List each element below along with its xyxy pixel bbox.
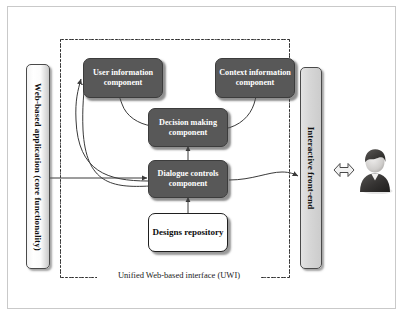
designs-repository-label: Designs repository	[152, 227, 223, 238]
decision-making-component-label: Decision making component	[150, 118, 226, 137]
user-information-component-label: User information component	[85, 68, 161, 87]
context-information-component[interactable]: Context information component	[215, 58, 295, 98]
double-headed-arrow-icon	[333, 160, 355, 180]
person-icon	[357, 146, 395, 194]
dialogue-controls-component-label: Dialogue controls component	[150, 169, 226, 188]
user-information-component[interactable]: User information component	[83, 58, 163, 98]
decision-making-component[interactable]: Decision making component	[148, 108, 228, 147]
uwi-region-label: Unified Web-based interface (UWI)	[97, 270, 261, 281]
dialogue-controls-component[interactable]: Dialogue controls component	[148, 160, 228, 198]
web-based-application-label: Web-based application (core functionalit…	[33, 83, 43, 251]
designs-repository[interactable]: Designs repository	[148, 213, 228, 252]
context-information-component-label: Context information component	[217, 68, 293, 87]
interactive-front-end-panel[interactable]: Interactive front-end	[300, 67, 322, 269]
web-based-application-panel[interactable]: Web-based application (core functionalit…	[26, 64, 50, 269]
diagram-canvas: Unified Web-based interface (UWI) Web-ba…	[0, 0, 404, 317]
interactive-front-end-label: Interactive front-end	[306, 127, 316, 210]
